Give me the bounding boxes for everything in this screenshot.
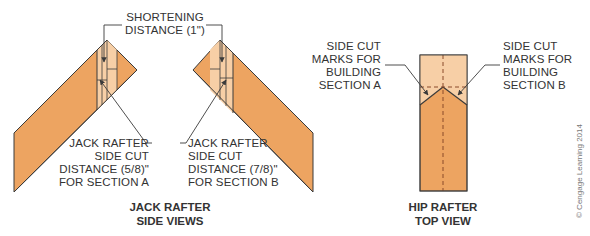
copyright-credit: © Cengage Learning 2014 bbox=[575, 124, 584, 218]
jack-a-line3: DISTANCE (5/8)" bbox=[55, 163, 149, 176]
side-cut-a-label: SIDE CUT MARKS FOR BUILDING SECTION A bbox=[310, 40, 381, 92]
jack-b-line1: JACK RAFTER bbox=[188, 137, 288, 150]
top-view-title-line2: TOP VIEW bbox=[398, 214, 488, 228]
jack-b-line3: DISTANCE (7/8)" bbox=[188, 163, 288, 176]
jack-b-line2: SIDE CUT bbox=[188, 150, 288, 163]
jack-rafter-a-label: JACK RAFTER SIDE CUT DISTANCE (5/8)" FOR… bbox=[55, 137, 149, 189]
top-view-title-line1: HIP RAFTER bbox=[398, 200, 488, 214]
jack-rafter-b-label: JACK RAFTER SIDE CUT DISTANCE (7/8)" FOR… bbox=[188, 137, 288, 189]
shortening-line2: DISTANCE (1") bbox=[122, 24, 208, 37]
shortening-line1: SHORTENING bbox=[122, 11, 208, 24]
side-cut-b-line3: BUILDING bbox=[503, 66, 583, 79]
side-cut-b-line4: SECTION B bbox=[503, 79, 583, 92]
rafter-diagram bbox=[0, 0, 590, 236]
side-cut-b-line2: MARKS FOR bbox=[503, 53, 583, 66]
side-cut-b-line1: SIDE CUT bbox=[503, 40, 583, 53]
jack-rafter-side-views-title: JACK RAFTER SIDE VIEWS bbox=[120, 200, 220, 228]
side-cut-leaders bbox=[100, 80, 226, 143]
hip-rafter-top-view-title: HIP RAFTER TOP VIEW bbox=[398, 200, 488, 228]
shortening-distance-label: SHORTENING DISTANCE (1") bbox=[122, 11, 208, 37]
jack-b-line4: FOR SECTION B bbox=[188, 176, 288, 189]
jack-a-line1: JACK RAFTER bbox=[55, 137, 149, 150]
jack-a-line4: FOR SECTION A bbox=[55, 176, 149, 189]
side-cut-a-line2: MARKS FOR bbox=[310, 53, 381, 66]
side-cut-a-line3: BUILDING bbox=[310, 66, 381, 79]
hip-rafter bbox=[420, 55, 467, 191]
jack-a-line2: SIDE CUT bbox=[55, 150, 149, 163]
side-cut-a-line4: SECTION A bbox=[310, 79, 381, 92]
side-views-title-line2: SIDE VIEWS bbox=[120, 214, 220, 228]
side-cut-a-line1: SIDE CUT bbox=[310, 40, 381, 53]
side-views-title-line1: JACK RAFTER bbox=[120, 200, 220, 214]
side-cut-b-label: SIDE CUT MARKS FOR BUILDING SECTION B bbox=[503, 40, 583, 92]
